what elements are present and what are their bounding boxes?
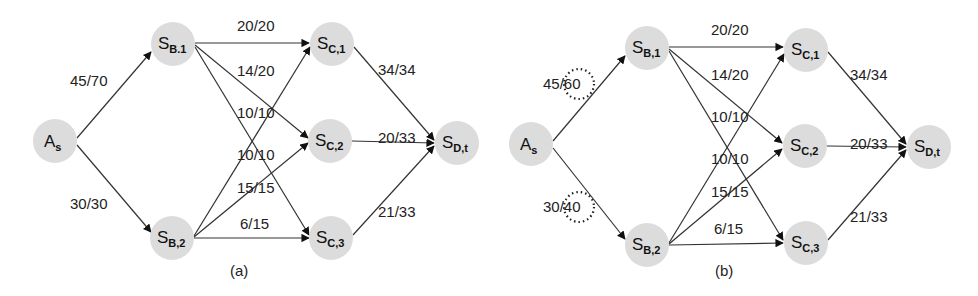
flow-network-figure: 45/70 30/30 20/20 14/20 10/10 10/10 15/1… (0, 0, 978, 296)
edge-label: 30/30 (70, 195, 108, 212)
edge-label: 10/10 (237, 104, 275, 121)
diagram-a: 45/70 30/30 20/20 14/20 10/10 10/10 15/1… (33, 17, 479, 279)
edge-as-sb1 (553, 56, 625, 141)
edge-sc3-sdt (828, 150, 906, 240)
edge-as-sb2 (553, 148, 625, 239)
edge-as-sb1 (77, 52, 151, 138)
edge-as-sb2 (77, 145, 151, 232)
edge-labels-a: 45/70 30/30 20/20 14/20 10/10 10/10 15/1… (70, 17, 416, 232)
node-sc3: SC,3 (309, 216, 353, 260)
edge-label: 20/20 (711, 21, 749, 38)
node-as: As (33, 119, 77, 163)
edge-label: 34/34 (850, 66, 888, 83)
node-sb1: SB.1 (151, 22, 195, 66)
edge-label: 6/15 (714, 220, 743, 237)
node-sb2: SB,2 (625, 223, 669, 267)
node-sc1: SC,1 (784, 28, 828, 72)
edge-sb1-sc2 (195, 45, 308, 138)
edge-label: 21/33 (378, 203, 416, 220)
edge-sb2-sc3 (669, 243, 783, 245)
edge-sc3-sdt (353, 146, 434, 235)
node-sc2: SC,2 (783, 124, 827, 168)
edge-label: 21/33 (850, 208, 888, 225)
edge-label: 20/33 (378, 129, 416, 146)
edge-label: 45/70 (70, 72, 108, 89)
edge-label: 15/15 (237, 179, 275, 196)
node-sb1: SB,1 (625, 26, 669, 70)
edge-label: 10/10 (237, 146, 275, 163)
edge-label: 10/10 (711, 150, 749, 167)
node-sdt: SD,t (435, 121, 479, 165)
diagram-b: 45/60 30/40 20/20 14/20 10/10 10/10 15/1… (509, 21, 951, 279)
caption-b: (b) (715, 262, 733, 279)
caption-a: (a) (230, 262, 248, 279)
node-sc2: SC,2 (308, 119, 352, 163)
edge-label: 20/33 (850, 135, 888, 152)
node-sc3: SC,3 (784, 221, 828, 265)
edge-sb1-sc2 (669, 49, 782, 143)
edge-label: 10/10 (711, 108, 749, 125)
node-sdt: SD,t (907, 125, 951, 169)
edge-label: 45/60 (543, 75, 581, 92)
edge-label: 14/20 (237, 62, 275, 79)
node-sb2: SB,2 (150, 216, 194, 260)
node-as: As (509, 122, 553, 166)
edge-label: 30/40 (543, 198, 581, 215)
node-sc1: SC,1 (310, 22, 354, 66)
edge-label: 15/15 (711, 183, 749, 200)
edge-label: 34/34 (378, 61, 416, 78)
edge-label: 20/20 (237, 17, 275, 34)
edge-label: 14/20 (711, 66, 749, 83)
edge-label: 6/15 (240, 215, 269, 232)
